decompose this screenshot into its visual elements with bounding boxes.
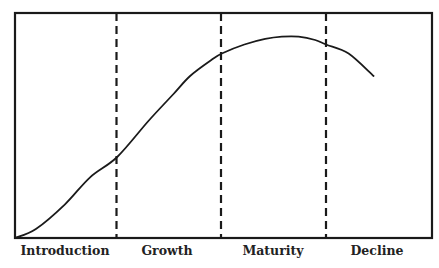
stage-label-maturity: Maturity bbox=[242, 243, 303, 258]
stage-label-introduction: Introduction bbox=[20, 243, 109, 258]
product-life-cycle-chart bbox=[0, 0, 439, 268]
stage-label-decline: Decline bbox=[351, 243, 404, 258]
stage-label-growth: Growth bbox=[141, 243, 192, 258]
chart-frame bbox=[15, 13, 432, 238]
